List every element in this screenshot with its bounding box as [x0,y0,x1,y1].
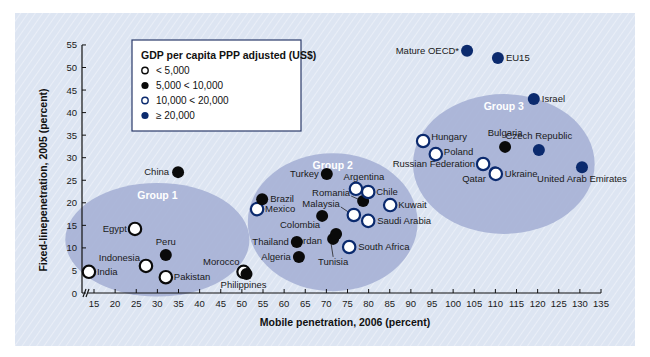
data-point-jordan [330,228,342,240]
x-tick-label: 95 [427,298,438,309]
data-point-brazil [256,193,268,205]
point-label-india: India [97,266,118,277]
legend-marker-lt5k [142,67,148,73]
y-tick-label: 5 [72,265,77,276]
point-label-brazil: Brazil [270,193,294,204]
legend-entry-ge20k: ≥ 20,000 [156,110,195,121]
data-point-india [83,266,95,278]
marker-circle [576,161,588,173]
point-label-malaysia: Malaysia [302,198,340,209]
x-tick-label: 55 [258,298,269,309]
y-tick-label: 50 [66,62,77,73]
marker-circle [129,223,141,235]
point-label-hungary: Hungary [431,131,467,142]
x-tick-label: 120 [530,298,546,309]
marker-circle [384,199,396,211]
point-label-israel: Israel [542,93,565,104]
marker-circle [417,135,429,147]
marker-circle [362,215,374,227]
marker-circle [316,210,328,222]
x-tick-label: 105 [466,298,482,309]
x-tick-label: 75 [342,298,353,309]
data-point-eu15 [492,52,504,64]
data-point-colombia [316,210,328,222]
marker-circle [499,141,511,153]
chart-canvas: Group 1Group 2Group 3 051015202530354045… [0,0,650,357]
marker-circle [83,266,95,278]
data-point-poland [430,148,442,160]
point-label-saudi-arabia: Saudi Arabia [377,215,432,226]
x-tick-label: 45 [215,298,226,309]
marker-circle [172,166,184,178]
point-label-indonesia: Indonesia [99,252,141,263]
x-tick-label: 90 [406,298,417,309]
y-tick-label: 55 [66,39,77,50]
marker-circle [293,251,305,263]
y-axis-title: Fixed-linepenetration, 2005 (percent) [37,88,49,271]
x-axis-title: Mobile penetration, 2006 (percent) [260,316,430,328]
point-label-czech-republic: Czech Republic [506,130,573,141]
x-tick-label: 40 [194,298,205,309]
data-point-turkey [321,168,333,180]
data-point-malaysia [348,209,360,221]
point-label-ukraine: Ukraine [505,168,538,179]
data-point-mature-oecd [461,45,473,57]
legend: GDP per capita PPP adjusted (US$)< 5,000… [132,40,316,131]
y-tick-label: 40 [66,107,77,118]
y-tick-label: 15 [66,220,77,231]
y-tick-label: 35 [66,130,77,141]
x-tick-label: 15 [89,298,100,309]
marker-circle [477,158,489,170]
data-point-hungary [417,135,429,147]
legend-entry-10k20k: 10,000 < 20,000 [156,95,229,106]
point-label-kuwait: Kuwait [398,199,427,210]
marker-circle [321,168,333,180]
y-tick-label: 45 [66,85,77,96]
point-label-argentina: Argentina [344,171,385,182]
point-label-chile: Chile [376,186,398,197]
group-label-3: Group 3 [484,100,524,112]
point-label-philippines: Philippines [221,279,267,290]
data-point-czech-republic [533,144,545,156]
point-label-south-africa: South Africa [358,241,410,252]
point-label-mexico: Mexico [265,203,295,214]
data-point-russian-federation [477,158,489,170]
x-tick-label: 115 [509,298,524,309]
point-label-egypt: Egypt [103,223,128,234]
x-tick-label: 65 [300,298,311,309]
x-tick-label: 50 [237,298,248,309]
data-point-saudi-arabia [362,215,374,227]
x-tick-label: 110 [488,298,503,309]
point-label-thailand: Thailand [252,236,288,247]
point-label-turkey: Turkey [290,168,319,179]
right-margin [635,0,650,357]
data-point-morocco [241,268,253,280]
data-point-kuwait [384,199,396,211]
point-label-tunisia: Tunisia [318,256,349,267]
data-point-indonesia [140,260,152,272]
y-tick-label: 0 [72,288,77,299]
point-label-romania: Romania [312,187,351,198]
marker-circle [430,148,442,160]
point-label-united-arab-emirates: United Arab Emirates [537,173,627,184]
data-point-pakistan [160,271,172,283]
marker-circle [291,236,303,248]
point-label-mature-oecd: Mature OECD* [396,45,460,56]
point-label-peru: Peru [156,236,176,247]
data-point-thailand [291,236,303,248]
data-point-israel [528,93,540,105]
marker-circle [350,183,362,195]
data-point-united-arab-emirates [576,161,588,173]
point-label-china: China [144,166,170,177]
x-tick-label: 85 [384,298,395,309]
data-point-argentina [350,183,362,195]
x-tick-label: 135 [593,298,609,309]
point-label-pakistan: Pakistan [174,271,210,282]
marker-circle [140,260,152,272]
legend-entry-5k10k: 5,000 < 10,000 [156,80,223,91]
data-point-chile [362,186,374,198]
data-point-peru [160,249,172,261]
data-point-south-africa [343,241,355,253]
point-label-algeria: Algeria [261,251,291,262]
x-tick-label: 20 [110,298,121,309]
